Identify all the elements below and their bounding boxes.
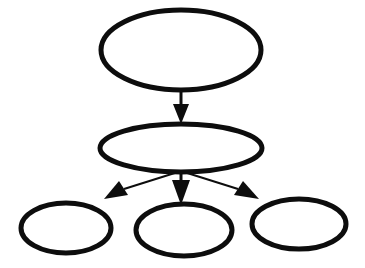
node-root-shape[interactable] xyxy=(101,10,261,90)
tree-diagram-svg xyxy=(0,0,365,268)
edge-root-to-mid xyxy=(173,90,189,124)
node-leaf-left[interactable] xyxy=(21,203,111,253)
node-leaf-middle-shape[interactable] xyxy=(136,204,232,256)
node-mid-shape[interactable] xyxy=(100,124,262,172)
node-leaf-right[interactable] xyxy=(252,199,346,249)
edge-mid-to-leaf-right xyxy=(184,172,259,199)
edge-root-to-mid-arrowhead-icon xyxy=(173,104,189,124)
node-mid[interactable] xyxy=(100,124,262,172)
node-leaf-right-shape[interactable] xyxy=(252,199,346,249)
tree-diagram-canvas xyxy=(0,0,365,268)
node-leaf-left-shape[interactable] xyxy=(21,203,111,253)
node-root[interactable] xyxy=(101,10,261,90)
edge-mid-to-leaf-left-shaft xyxy=(124,172,178,189)
node-leaf-middle[interactable] xyxy=(136,204,232,256)
edge-mid-to-leaf-middle xyxy=(172,172,190,205)
edge-mid-to-leaf-right-arrowhead-icon xyxy=(234,181,259,199)
edge-mid-to-leaf-middle-arrowhead-icon xyxy=(172,180,190,205)
edge-mid-to-leaf-left xyxy=(104,172,178,199)
edge-mid-to-leaf-right-shaft xyxy=(184,172,238,189)
node-group xyxy=(21,10,346,256)
edge-mid-to-leaf-left-arrowhead-icon xyxy=(104,181,128,199)
